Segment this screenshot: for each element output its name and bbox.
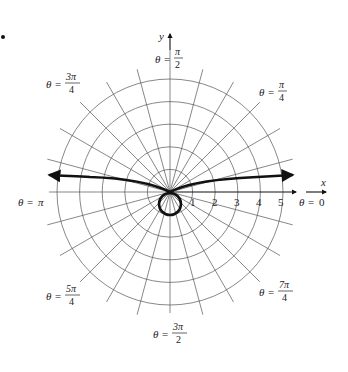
svg-text:θ =: θ = [18,196,34,208]
svg-text:θ =: θ = [46,290,62,302]
angle-label-pi-over-4: θ = π 4 [259,79,287,103]
grid-spoke-345 [170,192,293,225]
svg-text:3π: 3π [65,71,77,82]
grid-spoke-285 [170,192,203,315]
polar-graph: y x 1 2 3 4 5 θ = π 2 θ = 3π 4 θ = π 4 θ… [0,0,348,372]
angle-label-3pi-over-4: θ = 3π 4 [46,71,80,95]
polar-grid [47,50,292,315]
x-axis-label: x [320,176,326,188]
svg-text:4: 4 [279,92,284,103]
r-tick-2: 2 [212,196,218,208]
grid-spoke-330 [170,192,280,256]
svg-text:π: π [38,196,44,208]
svg-text:θ =: θ = [299,196,315,208]
svg-text:θ =: θ = [155,53,171,65]
r-tick-3: 3 [234,196,240,208]
grid-spoke-150 [60,129,170,193]
angle-label-7pi-over-4: θ = 7π 4 [259,279,293,303]
angle-label-5pi-over-4: θ = 5π 4 [46,283,80,307]
curve-left-branch [50,175,170,192]
svg-text:θ =: θ = [259,86,275,98]
svg-text:5π: 5π [66,283,77,294]
svg-text:7π: 7π [279,279,290,290]
r-tick-4: 4 [256,196,262,208]
grid-spoke-105 [137,69,170,192]
angle-label-3pi-over-2: θ = 3π 2 [153,321,187,345]
svg-text:θ =: θ = [46,78,62,90]
grid-spoke-120 [107,82,171,192]
svg-text:θ =: θ = [259,286,275,298]
angle-label-pi: θ = π [18,196,44,208]
svg-text:π: π [175,46,181,57]
svg-text:4: 4 [69,296,74,307]
svg-text:2: 2 [176,334,181,345]
r-tick-5: 5 [278,196,284,208]
svg-text:4: 4 [282,292,287,303]
angle-label-zero: θ = 0 [299,196,325,208]
curve-right-branch [170,175,292,192]
grid-spoke-30 [170,129,280,193]
grid-spoke-225 [80,192,170,282]
svg-text:π: π [279,79,285,90]
svg-text:3π: 3π [172,321,184,332]
grid-spoke-255 [137,192,170,315]
grid-spoke-75 [170,69,203,192]
svg-text:4: 4 [69,84,74,95]
grid-spoke-60 [170,82,234,192]
grid-spoke-210 [60,192,170,256]
svg-text:2: 2 [175,59,180,70]
grid-spoke-195 [47,192,170,225]
svg-text:θ =: θ = [153,328,169,340]
y-axis-label: y [158,30,164,42]
svg-text:0: 0 [319,196,325,208]
r-tick-1: 1 [190,196,196,208]
angle-label-pi-over-2: θ = π 2 [155,46,183,70]
